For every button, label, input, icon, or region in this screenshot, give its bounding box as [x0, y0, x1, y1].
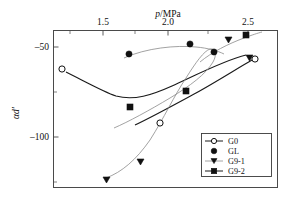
series-curve-g9-1: [106, 49, 215, 178]
x-tick-label-1: 1.5: [97, 17, 109, 27]
data-point-gl: [126, 51, 132, 57]
data-point-gl: [187, 41, 193, 47]
y-tick-label-1: –50: [34, 42, 50, 52]
scatter-plot: p/MPa 1.5 2.0 2.5 –50 –100 αd′: [0, 0, 290, 198]
legend-label-g0: G0: [228, 137, 238, 146]
x-tick-label-3: 2.5: [242, 17, 254, 27]
series-markers-gl: [126, 41, 217, 57]
chart-figure: p/MPa 1.5 2.0 2.5 –50 –100 αd′: [0, 0, 290, 198]
legend-marker-g9-2: [211, 168, 216, 173]
data-point-g9-2: [183, 88, 189, 94]
y-axis-title: αd′: [11, 106, 21, 119]
data-point-g0: [157, 120, 163, 126]
y-axis-ticks: [54, 47, 59, 182]
series-curve-gl: [124, 46, 224, 58]
series-curve-g0: [66, 55, 246, 98]
legend-label-gl: GL: [228, 147, 239, 156]
legend-label-g9-1: G9-1: [228, 157, 245, 166]
data-point-g9-1: [103, 177, 110, 183]
chart-legend[interactable]: G0 GL G9-1 G9-2: [202, 134, 272, 177]
series-curve-g9-2: [135, 60, 252, 125]
legend-label-g9-2: G9-2: [228, 167, 245, 176]
data-point-g9-2: [127, 104, 133, 110]
data-point-g0: [252, 56, 258, 62]
data-point-g9-1: [137, 159, 144, 165]
y-tick-label-2: –100: [29, 132, 49, 142]
legend-marker-g0: [211, 138, 216, 143]
data-point-gl: [211, 49, 217, 55]
data-point-g9-2: [243, 32, 249, 38]
data-point-g0: [59, 66, 65, 72]
x-axis-ticks: [70, 31, 248, 36]
x-tick-label-2: 2.0: [162, 17, 174, 27]
legend-marker-gl: [211, 148, 217, 154]
data-point-g9-1: [225, 37, 232, 43]
